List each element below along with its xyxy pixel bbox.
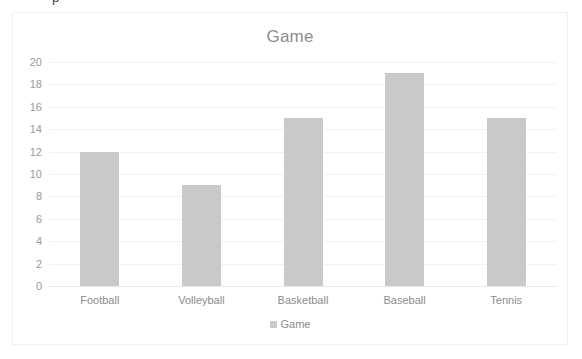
clipped-header-text: p [52, 0, 94, 5]
legend-label-game: Game [281, 318, 311, 330]
gridline-18 [49, 84, 557, 85]
bar-basketball[interactable] [284, 118, 323, 286]
bar-football[interactable] [80, 152, 119, 286]
y-axis-tick-label: 16 [30, 101, 42, 113]
bar-volleyball[interactable] [182, 185, 221, 286]
y-axis-tick-label: 2 [36, 258, 42, 270]
y-axis-tick-label: 6 [36, 213, 42, 225]
chart-container: Game 20181614121086420FootballVolleyball… [12, 12, 568, 345]
x-axis-tick-label: Basketball [278, 294, 329, 306]
y-axis-tick-label: 20 [30, 56, 42, 68]
chart-title: Game [13, 27, 567, 47]
y-axis-tick-label: 18 [30, 78, 42, 90]
y-axis-tick-label: 12 [30, 146, 42, 158]
chart-legend: Game [13, 318, 567, 330]
y-axis-tick-label: 0 [36, 280, 42, 292]
gridline-0 [49, 286, 557, 287]
x-axis-tick-label: Tennis [490, 294, 522, 306]
bar-tennis[interactable] [487, 118, 526, 286]
y-axis-tick-label: 14 [30, 123, 42, 135]
gridline-20 [49, 62, 557, 63]
gridline-16 [49, 107, 557, 108]
y-axis-tick-label: 8 [36, 190, 42, 202]
x-axis-tick-label: Volleyball [178, 294, 224, 306]
x-axis-tick-label: Baseball [383, 294, 425, 306]
y-axis-tick-label: 10 [30, 168, 42, 180]
y-axis-tick-label: 4 [36, 235, 42, 247]
bar-baseball[interactable] [385, 73, 424, 286]
x-axis-tick-label: Football [80, 294, 119, 306]
plot-area: 20181614121086420FootballVolleyballBaske… [49, 62, 557, 286]
legend-swatch-game [270, 321, 277, 328]
